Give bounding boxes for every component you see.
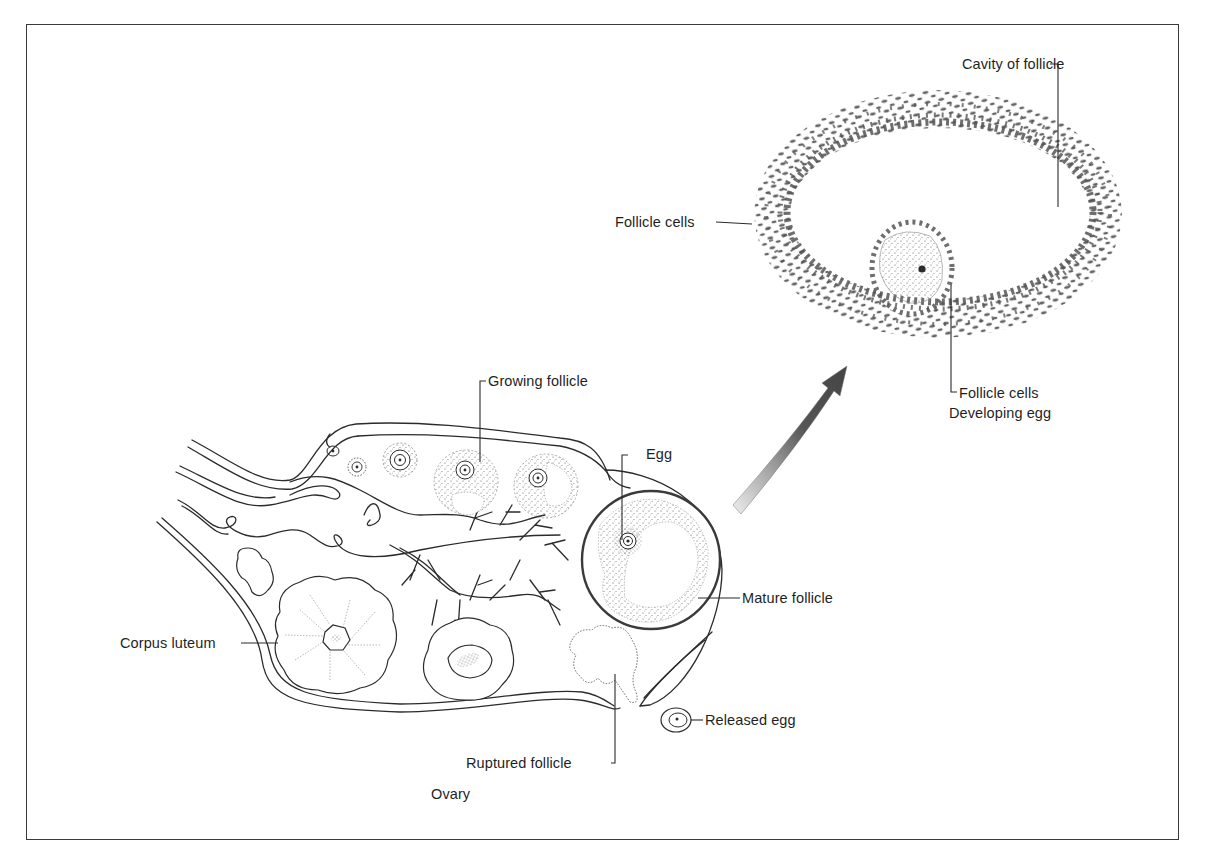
- label-released-egg: Released egg: [705, 712, 796, 728]
- ovary-diagram: [0, 0, 1205, 859]
- label-follicle-cells-inner: Follicle cells: [959, 385, 1039, 401]
- growing-follicles: [327, 443, 578, 518]
- corpus-luteum: [275, 576, 514, 700]
- label-egg: Egg: [646, 446, 672, 462]
- label-ruptured-follicle: Ruptured follicle: [466, 755, 572, 771]
- curved-arrow-icon: [733, 366, 847, 514]
- label-developing-egg: Developing egg: [949, 405, 1051, 421]
- mature-follicle: [582, 491, 720, 629]
- label-follicle-cells-outer: Follicle cells: [615, 214, 695, 230]
- label-ovary: Ovary: [431, 786, 470, 802]
- label-mature-follicle: Mature follicle: [742, 590, 833, 606]
- degenerating-body: [237, 548, 274, 596]
- label-growing-follicle: Growing follicle: [488, 373, 588, 389]
- label-cavity-of-follicle: Cavity of follicle: [962, 56, 1065, 72]
- label-corpus-luteum: Corpus luteum: [120, 635, 216, 651]
- ruptured-follicle: [570, 625, 638, 702]
- follicle-enlargement: [754, 90, 1122, 338]
- released-egg: [661, 708, 691, 732]
